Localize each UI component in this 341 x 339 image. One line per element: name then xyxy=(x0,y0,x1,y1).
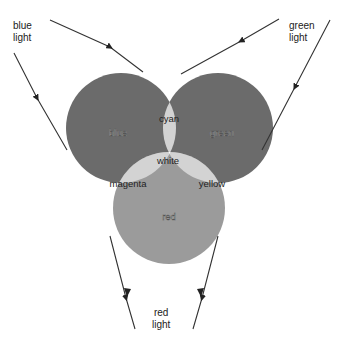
yellow-region-label: yellow xyxy=(199,178,225,189)
red-light-label-line1: red xyxy=(152,307,170,319)
green-light-label-line1: green xyxy=(289,20,315,32)
magenta-region-label: magenta xyxy=(110,178,147,189)
green-region-label: green xyxy=(210,127,234,138)
red-ray-arrows xyxy=(0,0,341,339)
red-light-label-line2: light xyxy=(152,319,170,331)
blue-light-label: blue light xyxy=(13,20,32,44)
red-region-label: red xyxy=(162,211,176,222)
arrow-icon xyxy=(124,288,131,297)
green-light-label: green light xyxy=(289,20,315,44)
blue-region-label: blue xyxy=(109,127,127,138)
blue-light-label-line2: light xyxy=(13,32,32,44)
white-region-label: white xyxy=(157,155,179,166)
arrow-icon xyxy=(197,288,204,297)
cyan-region-label: cyan xyxy=(159,113,179,124)
green-light-label-line2: light xyxy=(289,32,315,44)
red-light-label: red light xyxy=(152,307,170,331)
blue-light-label-line1: blue xyxy=(13,20,32,32)
